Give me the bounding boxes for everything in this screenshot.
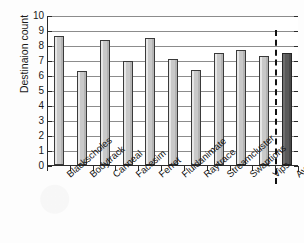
x-category-label: Raytrace — [202, 172, 208, 179]
x-category-label: Blackscholes — [65, 172, 71, 179]
bar-slot — [116, 16, 139, 165]
bar-streamcluster[interactable] — [214, 53, 224, 165]
x-axis-tick-marks — [47, 166, 298, 171]
x-tick-mark — [70, 166, 71, 171]
x-tick-mark — [93, 166, 94, 171]
x-category-label: Bodytrack — [88, 172, 94, 179]
y-axis-tick-labels: 109876543210 — [28, 14, 44, 166]
average-separator-line — [275, 30, 277, 184]
bar-slot — [207, 16, 230, 165]
x-category-label: Facesim — [134, 172, 140, 179]
y-tick-label: 2 — [28, 131, 44, 141]
y-tick-label: 8 — [28, 41, 44, 51]
bar-slot — [93, 16, 116, 165]
y-tick-label: 0 — [28, 161, 44, 171]
bar-vips[interactable] — [259, 56, 269, 166]
x-category-label: Swaptions — [248, 172, 254, 179]
x-tick-mark — [138, 166, 139, 171]
x-tick-mark — [298, 166, 299, 171]
bar-blackscholes[interactable] — [54, 36, 64, 165]
bar-average[interactable] — [282, 53, 292, 165]
x-category-label: Fluidanimate — [180, 172, 186, 179]
bar-slot — [184, 16, 207, 165]
y-tick-label: 7 — [28, 56, 44, 66]
x-category-label: Canneal — [111, 172, 117, 179]
x-category-label: Ferret — [157, 172, 163, 179]
y-tick-label: 3 — [28, 116, 44, 126]
bar-ferret[interactable] — [145, 38, 155, 165]
x-tick-mark — [252, 166, 253, 171]
bar-slot — [71, 16, 94, 165]
x-tick-mark — [161, 166, 162, 171]
bar-slot — [162, 16, 185, 165]
bar-slot — [230, 16, 253, 165]
x-category-label: Average — [294, 172, 300, 179]
x-tick-mark — [115, 166, 116, 171]
y-tick-label: 5 — [28, 86, 44, 96]
bar-facesim[interactable] — [123, 61, 133, 165]
x-tick-mark — [275, 166, 276, 171]
x-category-label: Streamcluster — [225, 172, 231, 179]
bar-series — [48, 16, 298, 165]
y-tick-label: 6 — [28, 71, 44, 81]
bar-slot — [48, 16, 71, 165]
x-tick-mark — [47, 166, 48, 171]
plot-area — [47, 16, 298, 166]
x-tick-mark — [207, 166, 208, 171]
bar-slot — [139, 16, 162, 165]
y-tick-label: 9 — [28, 26, 44, 36]
y-tick-label: 4 — [28, 101, 44, 111]
bar-swaptions[interactable] — [236, 50, 246, 166]
x-tick-mark — [230, 166, 231, 171]
bar-slot — [275, 16, 298, 165]
bar-slot — [253, 16, 276, 165]
y-tick-label: 10 — [28, 11, 44, 21]
bar-canneal[interactable] — [100, 40, 110, 165]
bar-raytrace[interactable] — [191, 70, 201, 165]
x-tick-mark — [184, 166, 185, 171]
y-tick-label: 1 — [28, 146, 44, 156]
bar-bodytrack[interactable] — [77, 71, 87, 166]
bar-fluidanimate[interactable] — [168, 59, 178, 166]
bar-chart-figure: Destinaion count 109876543210 Blackschol… — [0, 0, 304, 243]
